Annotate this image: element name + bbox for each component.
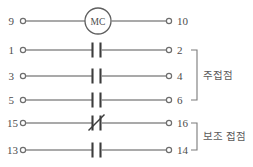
row-coil-9-10: 9 MC 10 (9, 8, 189, 34)
terminal-dot-right-4[interactable] (166, 73, 171, 78)
normally-open-contact-icon (93, 93, 101, 108)
bracket-main-contacts (191, 50, 197, 100)
terminal-dot-right-2[interactable] (166, 47, 171, 52)
terminal-label-right-14: 14 (177, 144, 189, 156)
terminal-label-left-1: 1 (9, 44, 15, 56)
terminal-dot-right-14[interactable] (166, 147, 171, 152)
terminal-label-right-10: 10 (177, 15, 189, 27)
terminal-dot-right-10[interactable] (166, 18, 171, 23)
mc-terminal-diagram: 9 MC 10 1 2 3 (0, 0, 253, 167)
group-label-main-contacts: 주접점 (203, 69, 233, 81)
normally-open-contact-icon (93, 69, 101, 84)
row-contact-1-2: 1 2 (9, 43, 183, 58)
terminal-label-left-15: 15 (7, 117, 19, 129)
group-label-auxiliary-contacts: 보조 접점 (203, 130, 246, 142)
terminal-label-left-9: 9 (9, 15, 15, 27)
row-contact-15-16: 15 16 (7, 115, 189, 131)
bracket-auxiliary-contacts (191, 123, 197, 150)
terminal-dot-left-5[interactable] (20, 97, 25, 102)
terminal-label-right-6: 6 (177, 94, 183, 106)
row-contact-5-6: 5 6 (9, 93, 184, 108)
row-contact-3-4: 3 4 (9, 69, 184, 84)
terminal-dot-right-16[interactable] (166, 120, 171, 125)
terminal-dot-left-13[interactable] (20, 147, 25, 152)
group-bracket-main-contacts: 주접점 (191, 50, 233, 100)
mc-coil-label: MC (91, 17, 106, 27)
row-contact-13-14: 13 14 (7, 143, 189, 158)
group-bracket-auxiliary-contacts: 보조 접점 (191, 123, 246, 150)
terminal-label-right-4: 4 (177, 70, 183, 82)
schematic-canvas: 9 MC 10 1 2 3 (0, 0, 253, 167)
terminal-dot-left-1[interactable] (20, 47, 25, 52)
terminal-dot-left-3[interactable] (20, 73, 25, 78)
terminal-label-left-3: 3 (9, 70, 15, 82)
terminal-label-right-16: 16 (177, 117, 189, 129)
terminal-dot-right-6[interactable] (166, 97, 171, 102)
terminal-label-right-2: 2 (177, 44, 183, 56)
terminal-label-left-5: 5 (9, 94, 15, 106)
terminal-dot-left-15[interactable] (20, 120, 25, 125)
terminal-dot-left-9[interactable] (20, 18, 25, 23)
normally-open-contact-icon (93, 143, 101, 158)
terminal-label-left-13: 13 (7, 144, 19, 156)
normally-open-contact-icon (93, 43, 101, 58)
